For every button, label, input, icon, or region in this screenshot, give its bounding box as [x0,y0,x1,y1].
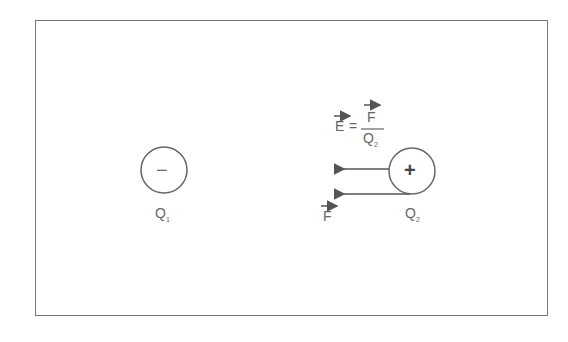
equation-denominator: Q2 [363,130,378,148]
equation-equals: = [349,118,357,134]
equation-numerator: F [367,109,376,125]
force-label: F [323,208,332,224]
charge-q2-sign: + [404,159,416,182]
q2-subscript: 2 [416,216,420,223]
q1-letter: Q [155,205,166,221]
denominator-subscript: 2 [374,141,378,148]
q1-subscript: 1 [166,216,170,223]
charge-q2-label: Q2 [405,205,420,223]
charge-q1-sign: − [156,159,168,182]
charge-q1-label: Q1 [155,205,170,223]
denominator-letter: Q [363,130,374,146]
diagram-canvas [0,0,568,342]
q2-letter: Q [405,205,416,221]
equation-lhs: E [335,118,344,134]
